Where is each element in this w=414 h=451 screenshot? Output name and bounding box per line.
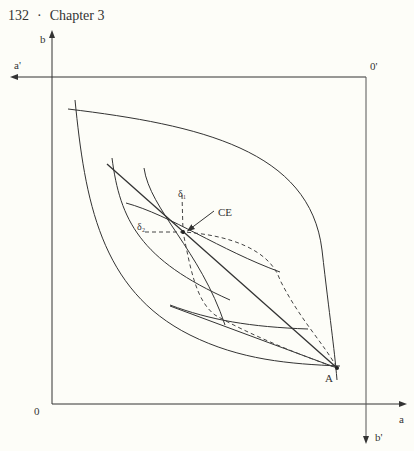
- ce-pointer-arrow: [190, 211, 214, 229]
- label-origin-prime: 0': [370, 60, 378, 72]
- indifference-curve-3: [126, 203, 280, 272]
- point-ce: [181, 230, 185, 234]
- indifference-curve-4: [170, 305, 308, 329]
- label-origin: 0: [34, 405, 40, 417]
- label-a-prime: a': [14, 59, 21, 71]
- indifference-curve-1: [112, 158, 230, 300]
- label-b: b: [40, 33, 46, 45]
- upper-lens-curve: [68, 109, 337, 380]
- label-delta1: δ₁: [178, 188, 186, 199]
- label-ce: CE: [218, 206, 232, 218]
- offer-curve-delta2: [145, 232, 337, 368]
- lower-lens-curve: [75, 100, 340, 366]
- label-b-prime: b': [375, 431, 383, 443]
- edgeworth-box-diagram: b a' 0' 0 a b' A CE δ₁ δ₂: [0, 0, 414, 451]
- label-delta2: δ₂: [137, 221, 145, 232]
- budget-line: [107, 164, 337, 368]
- label-point-a: A: [325, 372, 333, 384]
- label-a: a: [399, 413, 404, 425]
- point-a: [335, 366, 339, 370]
